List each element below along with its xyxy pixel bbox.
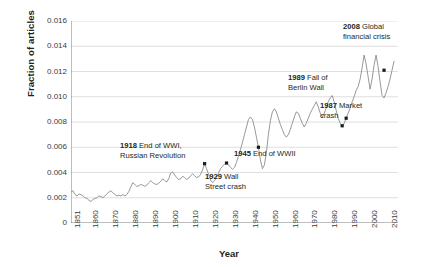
- annotation-marker: [382, 69, 385, 72]
- annotation-year: 2008: [343, 22, 360, 31]
- annotation-line-1: 2008 Global: [343, 22, 390, 32]
- annotation-1989: 1989 Fall ofBerlin Wall: [288, 73, 328, 92]
- annotation-marker: [225, 161, 228, 164]
- annotation-year: 1987: [320, 101, 337, 110]
- annotation-marker: [203, 162, 206, 165]
- annotation-year: 1989: [288, 73, 305, 82]
- annotation-1918: 1918 End of WWI,Russian Revolution: [120, 141, 185, 160]
- annotation-1929: 1929 WallStreet crash: [205, 172, 246, 191]
- annotation-line-1: 1945 End of WWII: [234, 149, 296, 159]
- annotation-line-1: 1987 Market: [320, 101, 362, 111]
- annotation-year: 1918: [120, 141, 137, 150]
- plot-area: [71, 21, 398, 223]
- annotation-1945: 1945 End of WWII: [234, 149, 296, 159]
- annotation-year: 1945: [234, 149, 251, 158]
- chart-figure: Fraction of articles Year 0.0160.0140.01…: [0, 0, 422, 267]
- annotation-line-2: Russian Revolution: [120, 151, 185, 161]
- annotation-line-2: Berlin Wall: [288, 83, 328, 93]
- annotation-line-1: 1989 Fall of: [288, 73, 328, 83]
- annotation-line-2: Street crash: [205, 182, 246, 192]
- annotation-year: 1929: [205, 172, 222, 181]
- annotation-line-2: crash: [320, 111, 362, 121]
- annotation-line-1: 1929 Wall: [205, 172, 246, 182]
- annotation-line-1: 1918 End of WWI,: [120, 141, 185, 151]
- annotation-2008: 2008 Globalfinancial crisis: [343, 22, 390, 41]
- annotation-marker: [341, 124, 344, 127]
- annotation-1987: 1987 Marketcrash: [320, 101, 362, 120]
- annotation-line-2: financial crisis: [343, 32, 390, 42]
- line-chart-svg: [71, 21, 398, 223]
